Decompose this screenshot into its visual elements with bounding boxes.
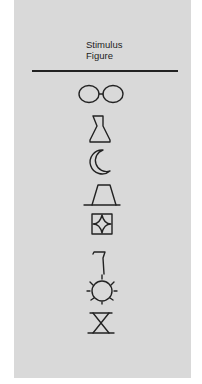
diamond-in-square-icon bbox=[92, 214, 112, 234]
seven-glyph-icon bbox=[93, 252, 105, 274]
eyeglasses-icon bbox=[79, 86, 123, 103]
sun-circle-icon bbox=[87, 275, 117, 304]
bottle-icon bbox=[90, 116, 110, 142]
hourglass-icon bbox=[88, 313, 114, 333]
trapezoid-hat-icon bbox=[84, 185, 120, 205]
crescent-moon-icon bbox=[90, 150, 110, 174]
